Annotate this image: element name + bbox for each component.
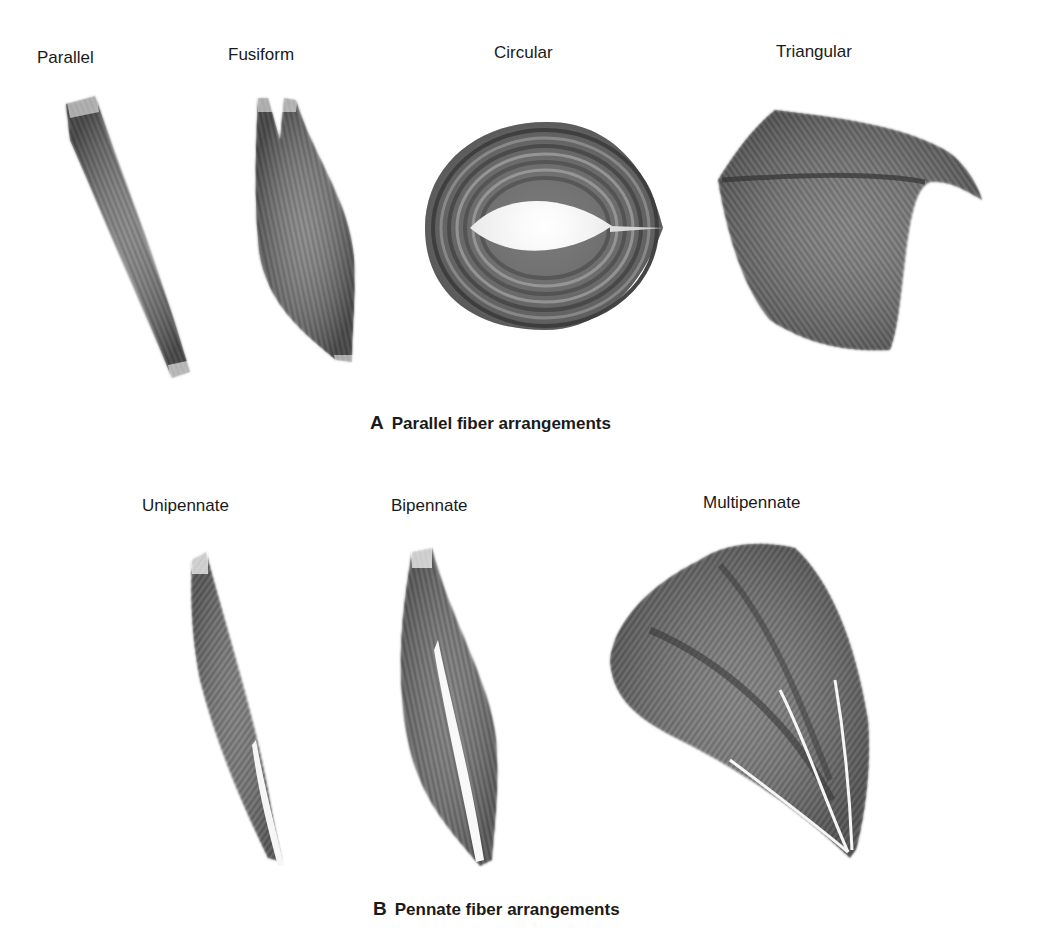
bipennate-muscle-illustration bbox=[401, 544, 498, 866]
circular-muscle-illustration bbox=[425, 122, 664, 330]
muscle-illustrations bbox=[0, 0, 1041, 941]
unipennate-muscle-illustration bbox=[188, 546, 284, 866]
fusiform-muscle-illustration bbox=[256, 92, 356, 380]
triangular-muscle-illustration bbox=[718, 110, 982, 350]
multipennate-muscle-illustration bbox=[610, 544, 869, 858]
parallel-muscle-illustration bbox=[66, 90, 194, 384]
